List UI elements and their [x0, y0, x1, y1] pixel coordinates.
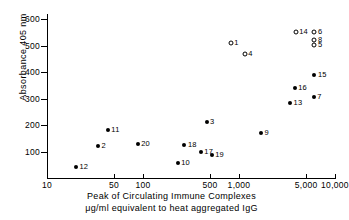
- x-tick-label-5000: 5,000: [295, 180, 318, 190]
- data-point-6: [312, 29, 317, 34]
- data-point-label-1: 1: [234, 38, 238, 47]
- data-point-label-5: 5: [318, 40, 322, 49]
- data-point-14: [293, 29, 298, 34]
- y-tick-label-600: 600: [0, 14, 40, 24]
- data-point-label-14: 14: [299, 27, 308, 36]
- plot-area: [47, 14, 335, 178]
- x-tick-label-100: 100: [135, 180, 150, 190]
- data-point-label-19: 19: [215, 150, 224, 159]
- y-tick-label-500: 500: [0, 40, 40, 50]
- data-point-9: [259, 131, 263, 135]
- data-point-2: [96, 144, 100, 148]
- x-tick-label-50: 50: [109, 180, 119, 190]
- data-point-4: [242, 52, 247, 57]
- y-tick-label-100: 100: [0, 146, 40, 156]
- data-point-18: [182, 143, 186, 147]
- x-tick-label-500: 500: [203, 180, 218, 190]
- data-point-11: [106, 128, 110, 132]
- data-point-7: [312, 95, 316, 99]
- data-point-label-18: 18: [188, 140, 197, 149]
- data-point-label-10: 10: [181, 158, 190, 167]
- x-tick-label-1000: 1,000: [228, 180, 251, 190]
- x-axis-line: [47, 178, 335, 179]
- data-point-3: [205, 120, 209, 124]
- data-point-15: [312, 73, 316, 77]
- data-point-20: [136, 142, 140, 146]
- data-point-16: [293, 86, 297, 90]
- y-tick-label-200: 200: [0, 120, 40, 130]
- data-point-19: [210, 153, 214, 157]
- x-tick-label-10: 10: [42, 180, 52, 190]
- x-axis-title-line2: μg/ml equivalent to heat aggregated IgG: [0, 202, 343, 214]
- data-point-17: [199, 150, 203, 154]
- data-point-5: [312, 42, 317, 47]
- y-tick-label-300: 300: [0, 93, 40, 103]
- x-axis-title-line1: Peak of Circulating Immune Complexes: [0, 190, 343, 202]
- x-axis-caption: Peak of Circulating Immune Complexes μg/…: [0, 190, 343, 214]
- data-point-label-12: 12: [79, 162, 88, 171]
- data-point-label-13: 13: [294, 98, 303, 107]
- x-tick-10000: [335, 174, 336, 179]
- data-point-label-16: 16: [298, 83, 307, 92]
- data-point-label-7: 7: [317, 92, 321, 101]
- data-point-label-2: 2: [102, 141, 106, 150]
- data-point-label-15: 15: [318, 70, 327, 79]
- data-point-label-4: 4: [248, 49, 252, 58]
- data-point-13: [288, 101, 292, 105]
- data-point-label-9: 9: [265, 128, 269, 137]
- data-point-label-3: 3: [210, 117, 214, 126]
- data-point-label-11: 11: [111, 125, 119, 134]
- data-point-label-20: 20: [141, 139, 150, 148]
- x-tick-label-10000: 10,000: [321, 180, 349, 190]
- data-point-1: [228, 40, 233, 45]
- data-point-12: [74, 165, 78, 169]
- y-tick-label-400: 400: [0, 67, 40, 77]
- data-point-10: [176, 161, 180, 165]
